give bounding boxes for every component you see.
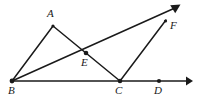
segment-ba <box>12 26 53 81</box>
point-label-c: C <box>115 85 122 96</box>
ray-bf-line <box>12 8 176 82</box>
point-a-dot <box>51 24 54 27</box>
point-d-dot <box>157 79 161 83</box>
point-label-b: B <box>8 85 15 96</box>
baseline-arrowhead <box>186 77 193 86</box>
point-label-d: D <box>154 85 162 96</box>
point-label-e: E <box>81 57 88 68</box>
geometry-canvas <box>0 0 198 100</box>
geometry-figure: A B C D E F <box>0 0 198 100</box>
point-c-dot <box>118 79 123 84</box>
point-b-dot <box>10 79 15 84</box>
point-label-f: F <box>170 20 177 31</box>
point-e-dot <box>84 51 89 56</box>
point-label-a: A <box>47 8 54 19</box>
point-f-dot <box>164 19 167 22</box>
